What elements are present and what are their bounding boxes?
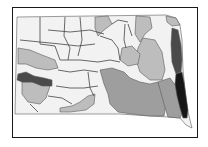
map-regions bbox=[15, 15, 192, 128]
south-dakota-choropleth-map bbox=[0, 0, 208, 147]
